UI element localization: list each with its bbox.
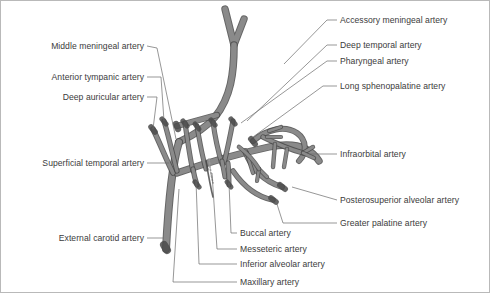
label-messeteric-artery: Messeteric artery — [240, 244, 307, 254]
leader-pharyngeal — [241, 61, 337, 123]
label-deep-auricular-artery: Deep auricular artery — [1, 92, 144, 102]
vessel-deep-temporal — [183, 121, 193, 171]
label-middle-meningeal-artery: Middle meningeal artery — [1, 41, 144, 51]
leader-greater-palatine — [276, 201, 337, 223]
label-deep-temporal-artery: Deep temporal artery — [340, 40, 422, 50]
label-superficial-temporal-artery: Superficial temporal artery — [1, 158, 144, 168]
label-maxillary-artery: Maxillary artery — [240, 277, 299, 287]
label-long-sphenopalatine-artery: Long sphenopalatine artery — [340, 81, 445, 91]
label-accessory-meningeal-artery: Accessory meningeal artery — [340, 15, 447, 25]
leader-posterosuperior — [292, 187, 337, 200]
vessel-ascending-fork — [211, 119, 235, 177]
label-pharyngeal-artery: Pharyngeal artery — [340, 56, 409, 66]
label-greater-palatine-artery: Greater palatine artery — [340, 218, 427, 228]
label-anterior-tympanic-artery: Anterior tympanic artery — [1, 72, 144, 82]
label-external-carotid-artery: External carotid artery — [1, 233, 144, 243]
leader-deep-auricular — [147, 97, 157, 129]
vessel-greater-palatine — [233, 171, 276, 202]
label-infraorbital-artery: Infraorbital artery — [340, 149, 406, 159]
leader-accessory-meningeal — [284, 20, 337, 64]
leader-buccal — [229, 183, 237, 233]
label-buccal-artery: Buccal artery — [240, 228, 291, 238]
leader-deep-temporal — [247, 45, 337, 121]
leader-anterior-tympanic — [147, 77, 164, 121]
leader-maxillary — [173, 189, 237, 282]
label-inferior-alveolar-artery: Inferior alveolar artery — [240, 259, 325, 269]
anatomical-figure: .v { stroke:#8a8a8a; fill:none; stroke-l… — [0, 0, 490, 293]
leader-messeteric — [212, 173, 237, 249]
label-posterosuperior-alveolar-artery: Posterosuperior alveolar artery — [340, 195, 459, 205]
vessel-group — [151, 9, 319, 250]
